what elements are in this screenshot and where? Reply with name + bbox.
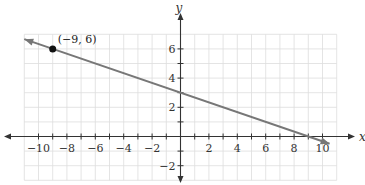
coordinate-plane: xy −10−8−6−4−2246810642−2 (−9, 6) <box>0 0 365 185</box>
x-axis-right-arrow-icon <box>348 134 355 140</box>
x-axis-label: x <box>359 130 365 144</box>
x-tick-label: 2 <box>205 142 212 155</box>
y-axis-down-arrow-icon <box>178 176 184 183</box>
tick-labels: −10−8−6−4−2246810642−2 <box>27 43 330 173</box>
x-tick-label: 6 <box>262 142 269 155</box>
x-tick-label: −8 <box>59 142 75 155</box>
line-start-arrow-icon <box>24 39 34 46</box>
y-tick-label: 4 <box>169 72 176 85</box>
line-graph <box>24 39 329 144</box>
x-tick-label: −2 <box>144 142 160 155</box>
x-tick-label: −6 <box>87 142 103 155</box>
x-tick-label: −4 <box>116 142 132 155</box>
point-label: (−9, 6) <box>58 33 97 46</box>
y-tick-label: 6 <box>169 43 176 56</box>
x-tick-label: 4 <box>234 142 241 155</box>
y-tick-label: −2 <box>159 160 175 173</box>
data-line <box>24 39 329 144</box>
axes: xy <box>4 1 365 183</box>
data-point <box>49 45 56 52</box>
y-tick-label: 2 <box>169 101 176 114</box>
x-tick-label: −10 <box>27 142 50 155</box>
y-axis-label: y <box>175 1 183 15</box>
x-tick-label: 8 <box>291 142 298 155</box>
x-axis-left-arrow-icon <box>4 134 11 140</box>
